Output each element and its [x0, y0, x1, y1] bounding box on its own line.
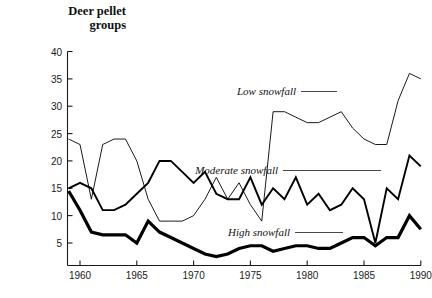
- y-tick-label: 15: [51, 183, 63, 194]
- x-tick-marks: [80, 261, 421, 266]
- y-tick-labels: 40 35 30 25 20 15 10 5: [51, 47, 63, 250]
- y-tick-label: 10: [51, 211, 63, 222]
- chart-page: Deer pelletgroups 40 35 30 25 20 15: [0, 0, 432, 298]
- y-tick-label: 35: [51, 74, 63, 85]
- y-tick-label: 5: [56, 238, 62, 249]
- x-axis: 1960 1965 1970 1975 1980 1985 1990: [68, 261, 432, 282]
- series-annotations: Low snowfall Moderate snowfall High snow…: [194, 85, 381, 238]
- y-tick-label: 25: [51, 129, 63, 140]
- y-tick-marks: [68, 52, 73, 244]
- x-tick-label: 1960: [69, 270, 92, 281]
- x-tick-label: 1990: [410, 270, 432, 281]
- x-tick-label: 1965: [126, 270, 149, 281]
- high-snowfall-label: High snowfall: [227, 226, 290, 238]
- x-tick-label: 1985: [353, 270, 376, 281]
- y-tick-label: 30: [51, 101, 63, 112]
- y-tick-label: 40: [51, 47, 63, 58]
- x-tick-label: 1980: [296, 270, 319, 281]
- x-tick-label: 1975: [239, 270, 262, 281]
- moderate-snowfall-label: Moderate snowfall: [194, 164, 278, 176]
- low-snowfall-label: Low snowfall: [236, 85, 296, 97]
- y-tick-label: 20: [51, 156, 63, 167]
- x-tick-label: 1970: [182, 270, 205, 281]
- line-chart: 40 35 30 25 20 15 10 5 1960: [0, 0, 432, 298]
- x-tick-labels: 1960 1965 1970 1975 1980 1985 1990: [69, 270, 432, 281]
- series-line-high-snowfall: [69, 191, 421, 257]
- y-axis: 40 35 30 25 20 15 10 5: [51, 47, 73, 266]
